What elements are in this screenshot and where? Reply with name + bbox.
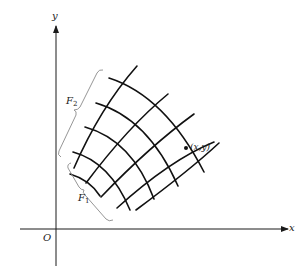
curve-b5-visible	[136, 143, 219, 210]
point-label: (x,y)	[190, 143, 210, 152]
curve-b2	[86, 94, 168, 183]
curvilinear-grid-figure: y x O (x,y) F2 F1	[0, 0, 306, 278]
family-f2-name: F	[66, 95, 73, 106]
family-f2-label: F2	[66, 96, 77, 108]
y-axis-label: y	[52, 11, 58, 21]
origin-label: O	[43, 233, 51, 243]
family-f2-subscript: 2	[73, 100, 77, 108]
x-axis-label: x	[289, 223, 295, 233]
family-f1-label: F1	[78, 193, 89, 205]
curve-a1	[109, 78, 204, 172]
curve-b5	[116, 145, 216, 210]
curve-family-b	[74, 66, 219, 210]
family-f1-subscript: 1	[85, 197, 89, 205]
point-xy-marker	[184, 146, 188, 150]
brace-f2	[58, 70, 103, 157]
family-f1-name: F	[78, 192, 85, 203]
